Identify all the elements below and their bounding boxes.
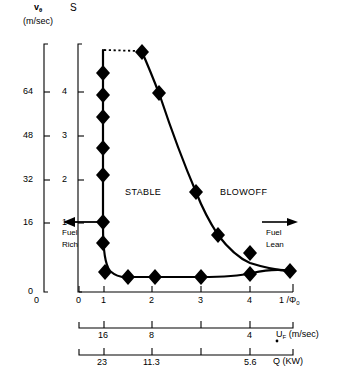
y-tick-v-32: 32 [23, 175, 33, 184]
y-tick-s-3: 3 [62, 131, 67, 140]
x-tick-phi-1: 1 [101, 296, 106, 305]
x-tick-q-23: 23 [97, 358, 107, 367]
x-axis-tertiary-label: Q (KW) [273, 357, 303, 366]
fuel-rich-arrow [63, 217, 101, 227]
y-tick-s-4: 4 [62, 87, 67, 96]
x-tick-phi-zero: 0 [76, 296, 81, 305]
fuel-rich-label-line2: Rich [62, 241, 78, 249]
fuel-rich-label-line1: Fuel [62, 229, 78, 237]
region-label-blowoff: BLOWOFF [220, 188, 267, 197]
y-axis-v-theta-units: (m/sec) [23, 17, 53, 26]
y-tick-v-0: 0 [28, 287, 33, 296]
fuel-lean-label-line1: Fuel [266, 229, 282, 237]
x-axis-secondary-label: UF (m/sec) [276, 330, 319, 340]
fuel-lean-arrow [262, 218, 298, 226]
y-tick-v-48: 48 [23, 131, 33, 140]
y-tick-v-64: 64 [23, 87, 33, 96]
x-tick-q-11-3: 11.3 [143, 358, 160, 367]
x-tick-q-5-6: 5.6 [244, 358, 257, 367]
stability-boundary-curve [103, 50, 290, 277]
y-tick-s-2: 2 [62, 175, 67, 184]
x-tick-phi-3: 3 [198, 296, 203, 305]
dashed-connector [104, 50, 140, 51]
x-tick-uf-16: 16 [98, 331, 108, 340]
x-axis-primary [79, 284, 293, 292]
chart-canvas [0, 0, 342, 373]
x-tick-uf-8: 8 [149, 331, 154, 340]
x-tick-phi-0-origin: 0 [34, 296, 39, 305]
q-dot-accent [276, 340, 279, 343]
x-axis-tertiary [79, 348, 293, 355]
y-axis-s-symbol: S [70, 3, 77, 13]
flame-stability-chart: vθ (m/sec) S 64 48 32 16 0 4 3 2 1 STABL… [0, 0, 342, 373]
x-axis-secondary [79, 321, 293, 328]
y-axis-s [78, 44, 84, 292]
x-axis-primary-label: 1 /Φ0 [279, 296, 300, 306]
region-label-stable: STABLE [125, 188, 161, 197]
fuel-lean-label-line2: Lean [266, 241, 284, 249]
x-tick-phi-2: 2 [149, 296, 154, 305]
y-axis-v-theta [44, 44, 50, 292]
x-tick-phi-4: 4 [247, 296, 252, 305]
y-tick-v-16: 16 [23, 218, 33, 227]
x-tick-uf-4: 4 [247, 331, 252, 340]
y-tick-s-1: 1 [62, 218, 67, 227]
y-axis-v-theta-symbol: vθ [34, 3, 42, 13]
